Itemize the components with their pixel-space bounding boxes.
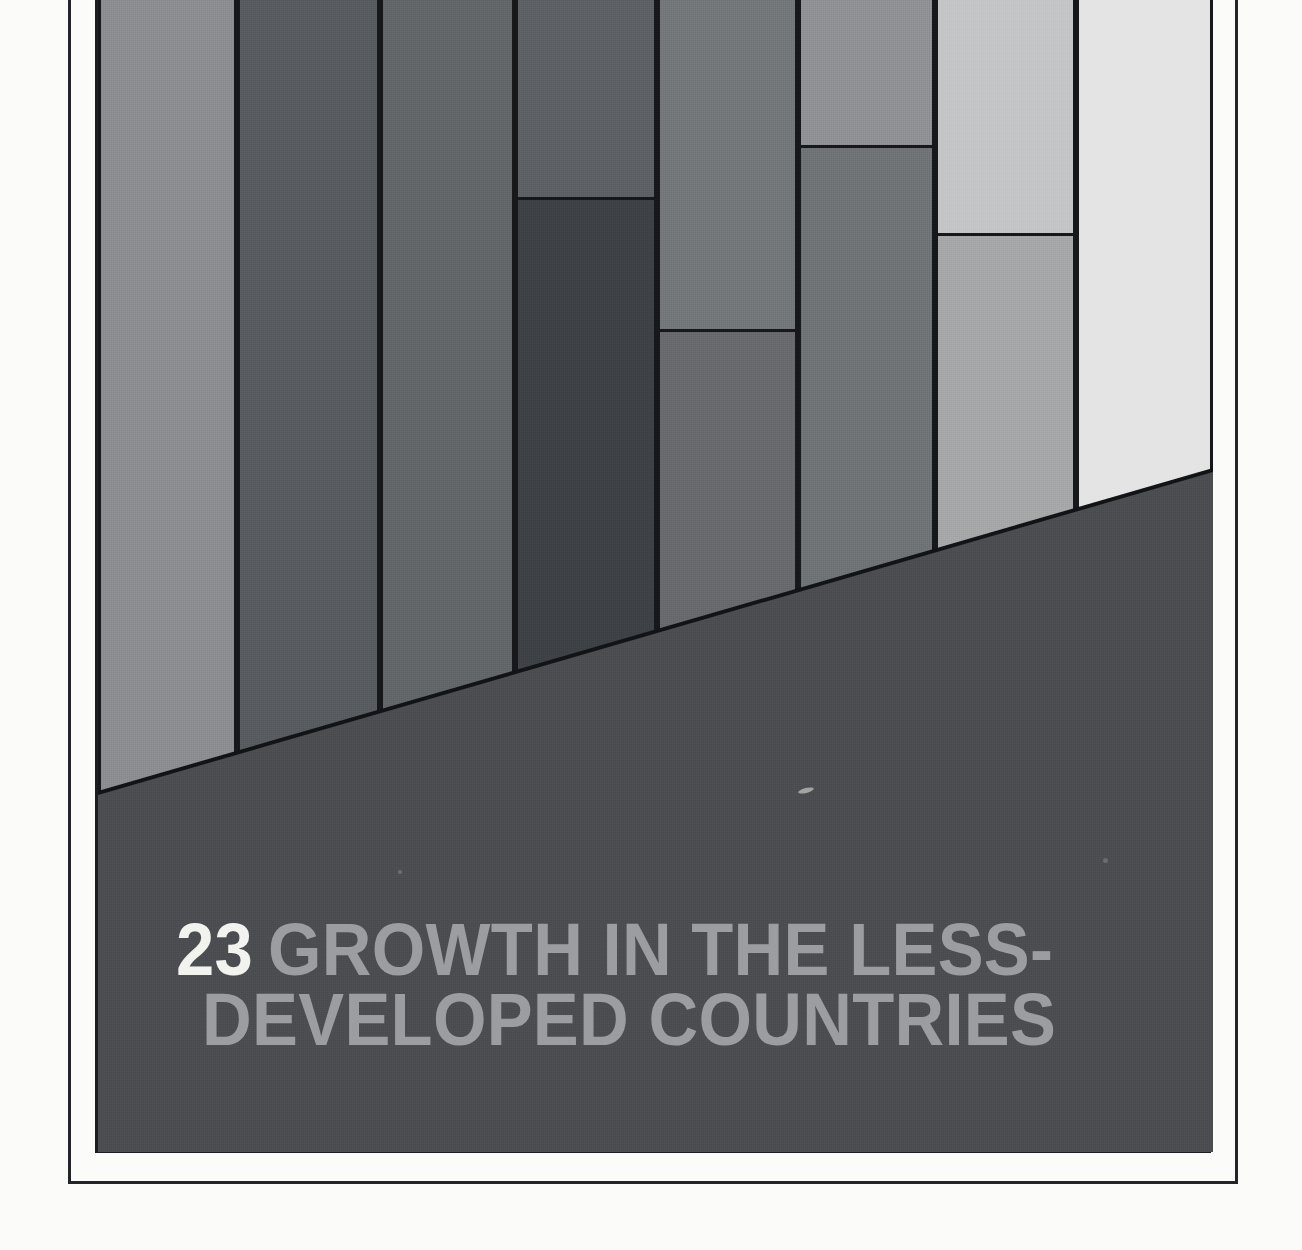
chapter-cover-page: 23GROWTH IN THE LESS- DEVELOPED COUNTRIE… [0,0,1302,1250]
chapter-title-line-2: DEVELOPED COUNTRIES [176,986,1115,1054]
chart-bar-6-segment-upper [801,0,932,151]
cover-artwork: 23GROWTH IN THE LESS- DEVELOPED COUNTRIE… [98,0,1213,1152]
chapter-title-line-1: 23GROWTH IN THE LESS- [176,916,1115,984]
chart-bar-4-segment-upper [518,0,654,203]
chart-bar-5-segment-upper [660,0,795,335]
chapter-title-block: 23GROWTH IN THE LESS- DEVELOPED COUNTRIE… [176,916,1186,1054]
scan-speck [398,870,402,874]
chart-bar-7-segment-upper [938,0,1073,239]
scan-speck [1103,858,1108,863]
